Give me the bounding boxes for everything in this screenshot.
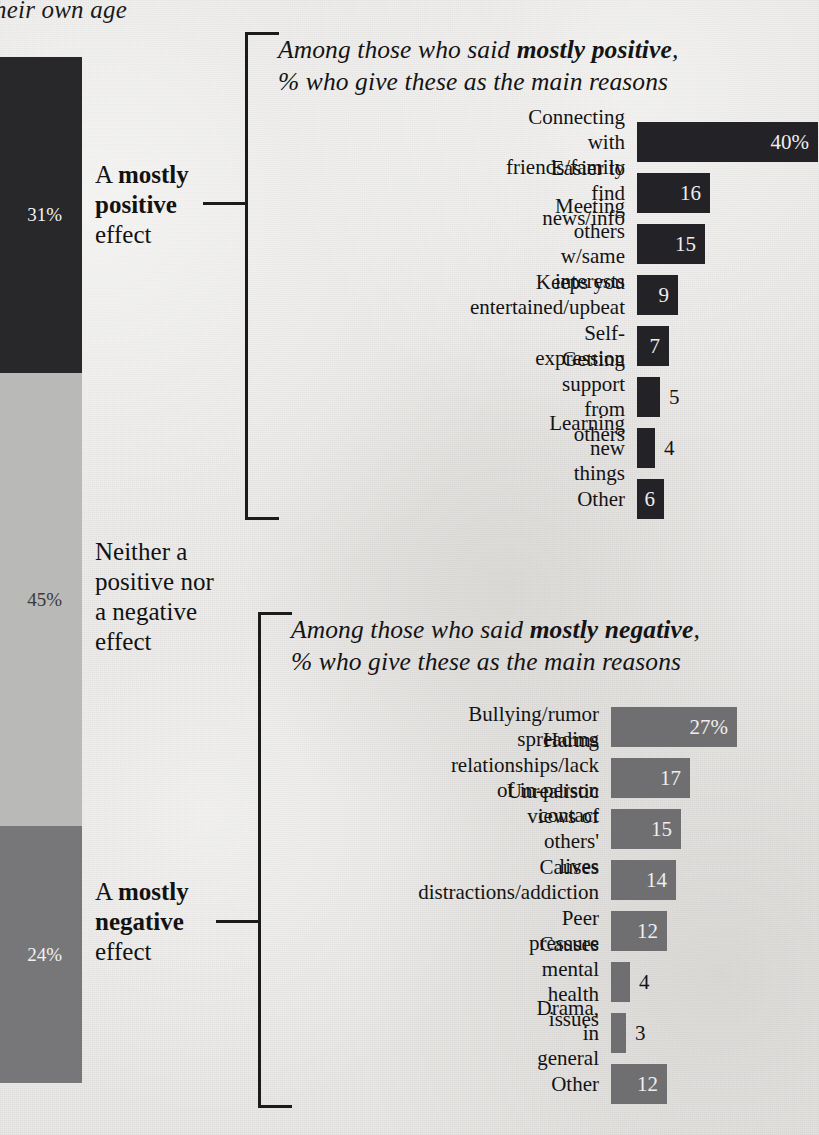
stack-segment-mostly-positive[interactable]: 31% [0,57,82,373]
stack-segment-neither[interactable]: 45% [0,373,82,826]
stack-label-mostly-negative: A mostly negative effect [95,877,189,967]
stack-label-bold-2: negative [95,908,184,935]
stack-label-line-c: effect [95,221,151,248]
stack-label-bold-1: mostly [118,161,189,188]
bar-label: Other [551,1072,599,1097]
bar-row[interactable]: Peer pressure 12 [611,911,667,951]
bar-label: Keeps you entertained/upbeat [470,270,625,320]
bracket-top-arm [245,32,279,35]
bracket-bottom-arm [245,517,279,520]
panel-title-pre: Among those who said [278,35,517,64]
bar-value: 14 [646,868,667,893]
stack-segment-value: 31% [27,204,62,226]
negative-bars-group: Bullying/rumor spreading 27% Harms relat… [611,0,819,1135]
bracket-bottom-arm [258,1105,292,1108]
bracket-vertical-line [245,32,248,520]
bracket-pointer-stub [203,202,248,205]
bar-row[interactable]: Causes distractions/addiction 14 [611,860,676,900]
bar-value: 27% [690,715,729,740]
bar-rect[interactable] [611,962,630,1002]
stack-label-mostly-positive: A mostly positive effect [95,160,189,250]
bracket-top-arm [258,612,292,615]
bar-value: 15 [651,817,672,842]
stack-segment-mostly-negative[interactable]: 24% [0,826,82,1083]
bar-row[interactable]: Drama, in general 3 [611,1013,626,1053]
panel-title-pre: Among those who said [291,615,530,644]
stack-label-line-c: effect [95,938,151,965]
headline-fragment: heir own age [0,0,127,24]
bracket-positive [245,32,320,520]
stack-label-neither: Neither apositive nora negativeeffect [95,537,214,657]
stack-segment-value: 45% [27,589,62,611]
stack-label-bold-2: positive [95,191,177,218]
bar-label: Causes distractions/addiction [418,855,599,905]
bracket-negative [258,612,333,1108]
bracket-vertical-line [258,612,261,1108]
bar-rect[interactable] [611,1013,626,1053]
stack-label-line-a: A [95,878,118,905]
bar-row[interactable]: Unrealistic views of others' lives 15 [611,809,681,849]
panel-title-line2: % who give these as the main reasons [278,67,668,96]
bar-value: 12 [637,1072,658,1097]
stack-label-line-a: A [95,161,118,188]
bar-row[interactable]: Other 12 [611,1064,667,1104]
bar-value: 17 [660,766,681,791]
stack-label-bold-1: mostly [118,878,189,905]
bracket-pointer-stub [216,920,261,923]
bar-label: Drama, in general [537,996,599,1071]
bar-row[interactable]: Harms relationships/lack of in-person co… [611,758,690,798]
bar-value: 12 [637,919,658,944]
bar-value: 3 [635,1021,646,1046]
bar-row[interactable]: Bullying/rumor spreading 27% [611,707,737,747]
stack-segment-value: 24% [27,944,62,966]
bar-row[interactable]: Causes mental health issues 4 [611,962,630,1002]
bar-value: 4 [639,970,650,995]
chart-page: heir own age 31% 45% 24% A mostly positi… [0,0,819,1135]
overall-effect-stacked-bar: 31% 45% 24% [0,57,82,1083]
stack-label-neither-text: Neither apositive nora negativeeffect [95,538,214,655]
